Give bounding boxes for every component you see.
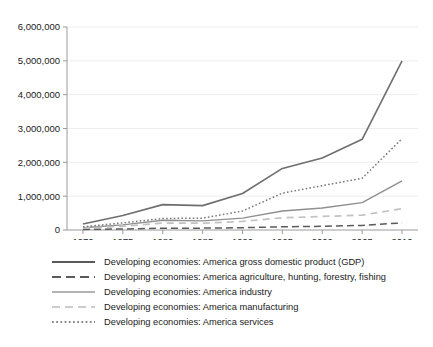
- svg-text:0: 0: [55, 224, 60, 235]
- legend-item-label: Developing economies: America services: [104, 316, 274, 328]
- legend-line-swatch-icon: [52, 315, 95, 329]
- legend-line-swatch-icon: [52, 270, 95, 284]
- svg-text:2010: 2010: [391, 236, 412, 240]
- svg-text:3,000,000: 3,000,000: [18, 123, 60, 134]
- svg-text:6,000,000: 6,000,000: [18, 21, 60, 32]
- legend-item[interactable]: Developing economies: America services: [0, 314, 433, 329]
- series-line-0: [83, 61, 402, 224]
- svg-text:1975: 1975: [112, 236, 133, 240]
- line-chart-svg: 01,000,0002,000,0003,000,0004,000,0005,0…: [0, 12, 433, 240]
- legend-item[interactable]: Developing economies: America manufactur…: [0, 299, 433, 314]
- legend-line-swatch-icon: [52, 300, 95, 314]
- legend-item-label: Developing economies: America manufactur…: [104, 301, 298, 313]
- y-tick-labels: 01,000,0002,000,0003,000,0004,000,0005,0…: [18, 21, 60, 235]
- x-axis: [67, 230, 418, 234]
- svg-text:2005: 2005: [352, 236, 373, 240]
- gridlines: [67, 27, 418, 196]
- legend-item[interactable]: Developing economies: America industry: [0, 284, 433, 299]
- svg-text:2,000,000: 2,000,000: [18, 157, 60, 168]
- svg-text:1980: 1980: [152, 236, 173, 240]
- svg-text:1985: 1985: [192, 236, 213, 240]
- legend-item-label: Developing economies: America agricultur…: [104, 271, 386, 283]
- chart-container: 01,000,0002,000,0003,000,0004,000,0005,0…: [0, 0, 433, 347]
- svg-text:5,000,000: 5,000,000: [18, 55, 60, 66]
- legend-item[interactable]: Developing economies: America agricultur…: [0, 269, 433, 284]
- svg-text:1990: 1990: [232, 236, 253, 240]
- svg-text:1,000,000: 1,000,000: [18, 191, 60, 202]
- chart-legend: Developing economies: America gross dome…: [0, 254, 433, 329]
- x-tick-labels: 197019751980198519901995200020052010: [72, 236, 412, 240]
- svg-text:1970: 1970: [72, 236, 93, 240]
- legend-item[interactable]: Developing economies: America gross dome…: [0, 254, 433, 269]
- svg-text:4,000,000: 4,000,000: [18, 89, 60, 100]
- legend-item-label: Developing economies: America gross dome…: [104, 256, 364, 268]
- svg-text:2000: 2000: [312, 236, 333, 240]
- svg-text:1995: 1995: [272, 236, 293, 240]
- plot-area: 01,000,0002,000,0003,000,0004,000,0005,0…: [0, 12, 433, 240]
- data-series-group: [83, 61, 402, 230]
- clipped-title-fragment: [66, 0, 366, 6]
- legend-line-swatch-icon: [52, 285, 95, 299]
- legend-item-label: Developing economies: America industry: [104, 286, 272, 298]
- y-axis: [63, 27, 67, 230]
- legend-line-swatch-icon: [52, 255, 95, 269]
